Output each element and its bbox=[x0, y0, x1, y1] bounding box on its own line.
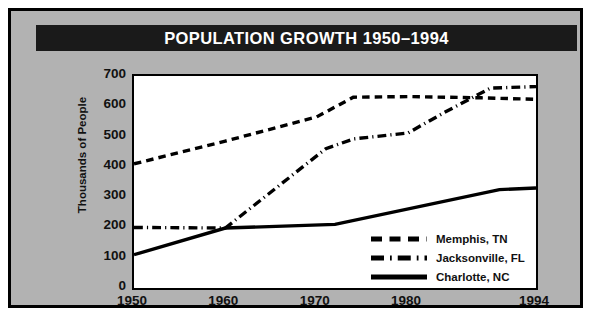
x-axis-tick-label: 1950 bbox=[97, 294, 167, 308]
legend-label: Memphis, TN bbox=[436, 233, 508, 245]
legend-label: Charlotte, NC bbox=[436, 271, 509, 283]
legend-label: Jacksonville, FL bbox=[436, 252, 525, 264]
y-axis-tick-label: 100 bbox=[80, 249, 126, 263]
x-axis-tick-label: 1980 bbox=[371, 294, 441, 308]
legend-item: Jacksonville, FL bbox=[371, 248, 525, 267]
legend-swatch-dashed bbox=[371, 232, 427, 246]
y-axis-tick-label: 200 bbox=[80, 218, 126, 232]
page-title: POPULATION GROWTH 1950–1994 bbox=[164, 29, 449, 48]
x-axis-tick-label: 1994 bbox=[499, 294, 569, 308]
series-line-jacksonville-fl bbox=[134, 87, 536, 228]
y-axis-tick-label: 400 bbox=[80, 158, 126, 172]
x-axis-tick-label: 1960 bbox=[188, 294, 258, 308]
legend-item: Memphis, TN bbox=[371, 229, 525, 248]
series-line-memphis-tn bbox=[134, 97, 536, 164]
chart-legend: Memphis, TNJacksonville, FLCharlotte, NC bbox=[371, 229, 525, 286]
chart-title-bar: POPULATION GROWTH 1950–1994 bbox=[36, 25, 577, 51]
y-axis-tick-label: 600 bbox=[80, 97, 126, 111]
y-axis-tick-label: 0 bbox=[80, 279, 126, 293]
legend-swatch-dash-dot bbox=[371, 251, 427, 265]
x-axis-tick-label: 1970 bbox=[280, 294, 350, 308]
y-axis-tick-label: 500 bbox=[80, 128, 126, 142]
legend-item: Charlotte, NC bbox=[371, 267, 525, 286]
chart-outer-frame: POPULATION GROWTH 1950–1994 Thousands of… bbox=[8, 8, 583, 308]
legend-swatch-solid bbox=[371, 270, 427, 284]
y-axis-tick-label: 700 bbox=[80, 67, 126, 81]
y-axis-tick-label: 300 bbox=[80, 188, 126, 202]
chart-screenshot: POPULATION GROWTH 1950–1994 Thousands of… bbox=[0, 0, 591, 316]
